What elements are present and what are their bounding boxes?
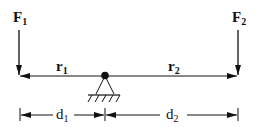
lever-diagram: F1 F2 r1 r2 d1 (0, 0, 255, 127)
dimension-d2-label: d2 (166, 106, 179, 124)
force-2-label: F2 (232, 9, 246, 27)
lever-arm-r1-label: r1 (56, 58, 68, 76)
force-1-label: F1 (13, 9, 27, 27)
lever-arm-r2-label: r2 (168, 58, 180, 76)
dimension-d1-label: d1 (56, 106, 69, 124)
